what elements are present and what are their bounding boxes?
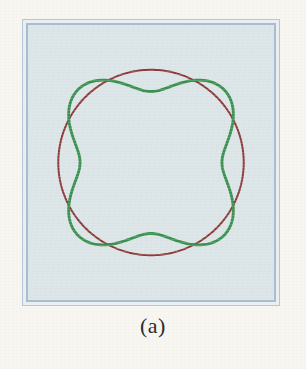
figure-caption: (a) — [0, 312, 306, 340]
figure-root: (a) — [0, 0, 306, 369]
curve-group — [58, 70, 243, 255]
curve-circle-path — [58, 70, 243, 255]
plot-frame-inner — [26, 23, 276, 302]
curve-four-lobed-rose-path — [69, 80, 234, 245]
plot-frame — [22, 19, 280, 306]
plot-canvas — [28, 25, 274, 300]
